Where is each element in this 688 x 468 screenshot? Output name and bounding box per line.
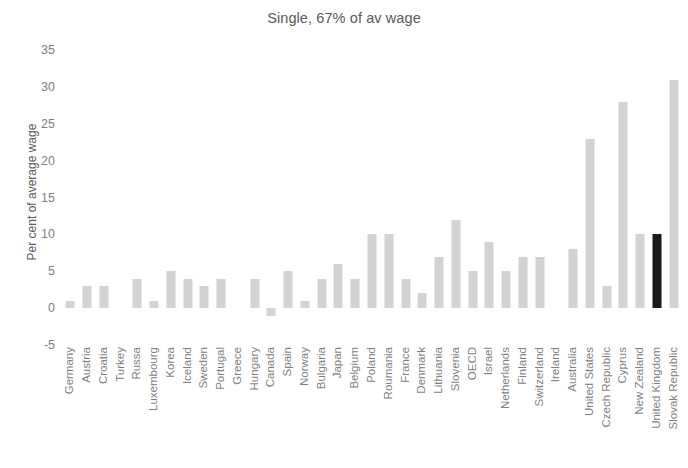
bar-rect: [669, 80, 678, 309]
bar: [313, 50, 330, 345]
bar: [330, 50, 347, 345]
x-axis-tick: Denmark: [415, 345, 429, 463]
x-axis-tick: United States: [583, 345, 597, 463]
x-axis-tick: Austria: [80, 345, 94, 463]
x-axis-tick: Turkey: [114, 345, 128, 463]
bar-rect: [585, 139, 594, 309]
x-axis-ticks: GermanyAustriaCroatiaTurkeyRussaLuxembou…: [62, 345, 682, 465]
bar-rect: [250, 279, 259, 309]
bar-rect: [602, 286, 611, 308]
x-axis-tick: Canada: [264, 345, 278, 463]
x-axis-tick-label: Spain: [282, 347, 294, 376]
bar-rect: [518, 257, 527, 309]
y-axis-tick: 5: [25, 264, 55, 278]
x-axis-tick-label: Finland: [517, 347, 529, 385]
bar-rect: [451, 220, 460, 309]
x-axis-tick-label: Israel: [484, 347, 496, 375]
x-axis-tick: Spain: [281, 345, 295, 463]
x-axis-tick: Ireland: [549, 345, 563, 463]
x-axis-tick-label: Portugal: [215, 347, 227, 390]
x-axis-tick: Slovak Republic: [667, 345, 681, 463]
x-axis-tick: OECD: [466, 345, 480, 463]
x-axis-tick: Greece: [231, 345, 245, 463]
x-axis-tick: Cyprus: [616, 345, 630, 463]
y-axis-tick: 35: [25, 43, 55, 57]
x-axis-tick-label: Australia: [567, 347, 579, 392]
bar-rect: [535, 257, 544, 309]
plot-area: 35302520151050-5: [62, 50, 682, 345]
x-axis-tick-label: Croatia: [98, 347, 110, 384]
bar-rect: [284, 271, 293, 308]
x-axis-tick-label: Hungary: [249, 347, 261, 390]
bar: [380, 50, 397, 345]
x-axis-tick: Australia: [566, 345, 580, 463]
y-axis-tick: 30: [25, 80, 55, 94]
x-axis-tick: Poland: [365, 345, 379, 463]
bar-rect: [384, 234, 393, 308]
bar-chart: Single, 67% of av wage Per cent of avera…: [0, 0, 688, 468]
bar: [230, 50, 247, 345]
x-axis-tick: Japan: [331, 345, 345, 463]
x-axis-tick: Finland: [516, 345, 530, 463]
x-axis-tick-label: Poland: [366, 347, 378, 383]
x-axis-tick-label: Japan: [333, 347, 345, 378]
bar: [514, 50, 531, 345]
x-axis-tick: Sweden: [197, 345, 211, 463]
bar-rect: [150, 301, 159, 308]
x-axis-tick-label: United States: [584, 347, 596, 416]
bar-series: [62, 50, 682, 345]
bar-rect: [636, 234, 645, 308]
bar-rect: [133, 279, 142, 309]
x-axis-tick: Luxembourg: [147, 345, 161, 463]
x-axis-tick: New Zealand: [633, 345, 647, 463]
bar-rect: [619, 102, 628, 309]
bar-rect: [502, 271, 511, 308]
x-axis-tick: Norway: [298, 345, 312, 463]
x-axis-tick-label: New Zealand: [634, 347, 646, 415]
x-axis-tick-label: Korea: [165, 347, 177, 378]
x-axis-tick: Switzerland: [533, 345, 547, 463]
bar-rect: [166, 271, 175, 308]
x-axis-tick: Russa: [130, 345, 144, 463]
x-axis-tick-label: Belgium: [349, 347, 361, 389]
x-axis-tick-label: Roumania: [383, 347, 395, 399]
x-axis-tick: Belgium: [348, 345, 362, 463]
bar-rect: [267, 308, 276, 315]
bar-rect: [200, 286, 209, 308]
bar: [481, 50, 498, 345]
bar: [263, 50, 280, 345]
x-axis-tick: Czech Republic: [600, 345, 614, 463]
x-axis-tick: France: [399, 345, 413, 463]
x-axis-tick: Germany: [63, 345, 77, 463]
x-axis-tick-label: United Kingdom: [651, 347, 663, 429]
x-axis-tick-label: Czech Republic: [601, 347, 613, 428]
x-axis-tick: Portugal: [214, 345, 228, 463]
y-axis-tick: 25: [25, 117, 55, 131]
bar-rect: [66, 301, 75, 308]
bar-rect: [367, 234, 376, 308]
bar: [146, 50, 163, 345]
bar-rect: [569, 249, 578, 308]
x-axis-tick-label: Lithuania: [433, 347, 445, 394]
bar: [431, 50, 448, 345]
bar: [280, 50, 297, 345]
y-axis-tick: 0: [25, 301, 55, 315]
bar: [548, 50, 565, 345]
bar: [665, 50, 682, 345]
bar: [347, 50, 364, 345]
x-axis-tick-label: Switzerland: [534, 347, 546, 406]
bar: [213, 50, 230, 345]
y-axis-tick: 20: [25, 154, 55, 168]
bar: [129, 50, 146, 345]
x-axis-tick: United Kingdom: [650, 345, 664, 463]
y-axis-tick: -5: [25, 338, 55, 352]
bar: [112, 50, 129, 345]
bar: [648, 50, 665, 345]
bar-rect: [351, 279, 360, 309]
bar-rect: [83, 286, 92, 308]
bar-rect: [99, 286, 108, 308]
bar: [414, 50, 431, 345]
x-axis-tick-label: Norway: [299, 347, 311, 386]
bar-rect: [485, 242, 494, 308]
x-axis-tick: Netherlands: [499, 345, 513, 463]
